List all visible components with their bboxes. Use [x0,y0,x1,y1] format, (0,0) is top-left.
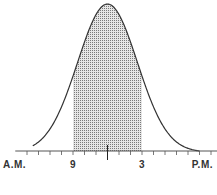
label-9: 9 [70,159,76,170]
label-pm: P.M. [192,159,213,170]
label-am: A.M. [3,159,26,170]
shaded-region [73,4,142,151]
distribution-diagram: A.M. 9 3 P.M. [0,0,217,195]
label-3: 3 [139,159,145,170]
